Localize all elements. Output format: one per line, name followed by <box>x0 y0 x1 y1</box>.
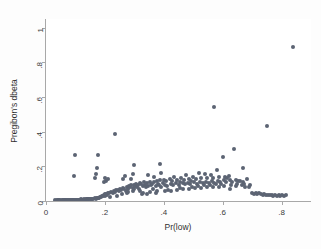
data-point <box>126 190 130 194</box>
data-point <box>241 166 245 170</box>
data-point <box>291 45 295 49</box>
data-point <box>94 172 98 176</box>
x-tick-mark <box>46 201 47 205</box>
data-point <box>96 153 100 157</box>
data-point <box>120 192 124 196</box>
data-point <box>73 153 77 157</box>
data-point <box>131 172 135 176</box>
y-axis-title: Pregibon's dbeta <box>8 19 20 202</box>
data-point <box>184 173 188 177</box>
y-tick-label: .6 <box>36 97 45 104</box>
y-tick-label: .8 <box>36 62 45 69</box>
data-point <box>211 176 215 180</box>
scatter-plot-figure: Pregibon's dbeta 0.2.4.6.81 0.2.4.6.8 Pr… <box>0 0 321 249</box>
data-point <box>205 176 209 180</box>
x-tick-mark <box>164 201 165 205</box>
data-point <box>221 155 225 159</box>
data-point <box>182 178 186 182</box>
data-point <box>72 174 76 178</box>
data-point <box>232 147 236 151</box>
data-point <box>222 184 226 188</box>
data-point <box>123 174 127 178</box>
x-tick-label: .4 <box>160 208 167 217</box>
data-point <box>217 175 221 179</box>
data-point <box>115 194 119 198</box>
data-points-layer <box>46 19 311 201</box>
data-point <box>199 176 203 180</box>
x-tick-label: 0 <box>44 208 48 217</box>
data-point <box>108 195 112 199</box>
x-tick-mark <box>105 201 106 205</box>
data-point <box>197 171 201 175</box>
data-point <box>132 163 136 167</box>
data-point <box>245 177 249 181</box>
data-point <box>234 184 238 188</box>
data-point <box>228 187 232 191</box>
data-point <box>106 177 110 181</box>
data-point <box>113 132 117 136</box>
x-tick-mark <box>223 201 224 205</box>
y-tick-label: 1 <box>36 28 45 32</box>
data-point <box>194 177 198 181</box>
x-tick-label: .8 <box>278 208 285 217</box>
x-tick-label: .2 <box>102 208 109 217</box>
x-tick-mark <box>282 201 283 205</box>
data-point <box>155 189 159 193</box>
data-point <box>265 124 269 128</box>
data-point <box>248 183 252 187</box>
data-point <box>158 162 162 166</box>
y-tick-label: .2 <box>36 166 45 173</box>
data-point <box>146 173 150 177</box>
data-point <box>93 176 97 180</box>
y-axis-title-text: Pregibon's dbeta <box>9 79 19 143</box>
data-point <box>159 171 163 175</box>
data-point <box>215 168 219 172</box>
data-point <box>181 187 185 191</box>
data-point <box>212 105 216 109</box>
data-point <box>148 190 152 194</box>
plot-area: 0.2.4.6.81 0.2.4.6.8 <box>45 19 311 202</box>
data-point <box>284 193 288 197</box>
y-tick-label: .4 <box>36 132 45 139</box>
data-point <box>95 166 99 170</box>
x-axis-title: Pr(low) <box>45 222 311 232</box>
data-point <box>169 189 173 193</box>
x-tick-label: .6 <box>219 208 226 217</box>
data-point <box>129 177 133 181</box>
y-tick-label: 0 <box>36 201 45 205</box>
